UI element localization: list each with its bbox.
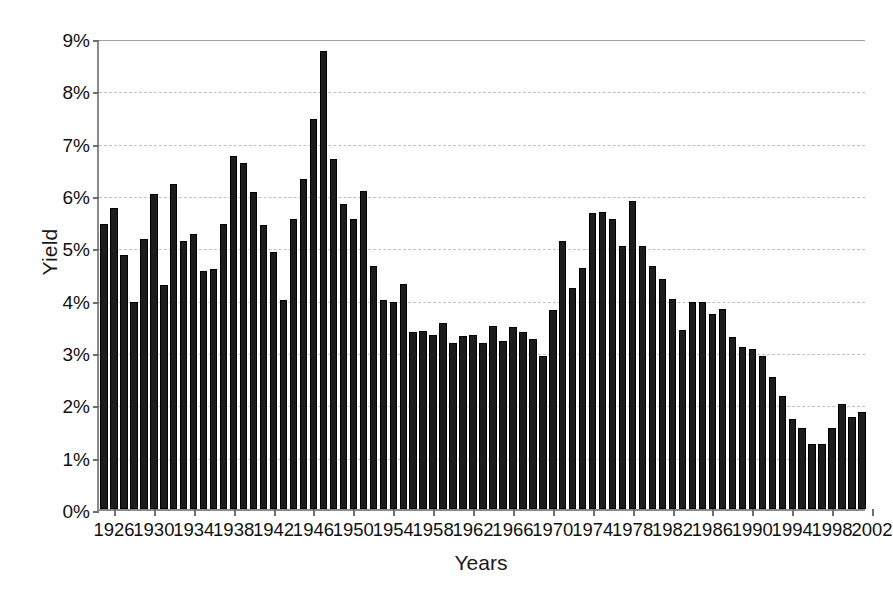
bar <box>589 213 596 509</box>
x-tick-label: 1966 <box>492 521 533 540</box>
y-tick-label: 9% <box>38 31 90 50</box>
bar <box>798 428 805 509</box>
y-tick-label: 2% <box>38 397 90 416</box>
bar <box>779 396 786 509</box>
bar <box>240 163 247 509</box>
bar <box>719 309 726 509</box>
bar <box>409 332 416 509</box>
bar <box>360 191 367 509</box>
bar <box>789 419 796 509</box>
bar <box>549 310 556 509</box>
bar <box>749 349 756 509</box>
x-tick-mark <box>673 509 675 516</box>
x-tick-label: 1958 <box>413 521 454 540</box>
bar <box>848 417 855 509</box>
x-tick-mark <box>433 509 435 516</box>
bar <box>808 444 815 509</box>
x-axis-title: Years <box>97 551 865 575</box>
bar <box>599 212 606 509</box>
x-tick-mark <box>513 509 515 516</box>
bar <box>489 326 496 509</box>
bar <box>729 337 736 509</box>
bar <box>400 284 407 509</box>
bar <box>529 339 536 509</box>
x-tick-mark <box>792 509 794 516</box>
bar <box>629 201 636 509</box>
bar <box>110 208 117 509</box>
x-tick-label: 1990 <box>732 521 773 540</box>
bar <box>649 266 656 509</box>
bar <box>769 377 776 509</box>
x-tick-label: 1934 <box>173 521 214 540</box>
x-tick-mark <box>872 509 874 516</box>
x-tick-label: 1982 <box>652 521 693 540</box>
x-tick-label: 1946 <box>293 521 334 540</box>
y-tick-label: 3% <box>38 345 90 364</box>
x-tick-label: 1926 <box>93 521 134 540</box>
x-tick-mark <box>593 509 595 516</box>
y-tick-label: 8% <box>38 83 90 102</box>
bar <box>180 241 187 509</box>
bar <box>469 335 476 509</box>
y-tick-mark <box>93 511 99 513</box>
x-tick-mark <box>313 509 315 516</box>
bar <box>479 343 486 509</box>
bar <box>270 252 277 509</box>
bar <box>669 299 676 509</box>
bar <box>330 159 337 509</box>
bar <box>739 347 746 509</box>
bar <box>699 302 706 509</box>
x-tick-label: 1942 <box>253 521 294 540</box>
bar <box>609 219 616 509</box>
x-tick-label: 1974 <box>572 521 613 540</box>
bar <box>130 302 137 509</box>
x-tick-label: 1930 <box>133 521 174 540</box>
bar <box>350 219 357 509</box>
bar <box>100 224 107 509</box>
plot-area: 0%1%2%3%4%5%6%7%8%9% 1926193019341938194… <box>97 40 865 511</box>
bar <box>858 412 865 509</box>
bar <box>818 444 825 509</box>
bar <box>499 341 506 510</box>
bar <box>260 225 267 509</box>
bar <box>300 179 307 509</box>
x-tick-label: 1994 <box>772 521 813 540</box>
bar <box>120 255 127 509</box>
bar <box>370 266 377 509</box>
y-tick-label: 4% <box>38 292 90 311</box>
x-tick-mark <box>712 509 714 516</box>
x-tick-mark <box>553 509 555 516</box>
bar <box>619 246 626 509</box>
x-tick-label: 1962 <box>452 521 493 540</box>
bar <box>390 302 397 509</box>
bar <box>579 268 586 509</box>
bar <box>190 234 197 509</box>
x-tick-mark <box>633 509 635 516</box>
bar <box>759 356 766 509</box>
bar <box>200 271 207 509</box>
x-tick-label: 1986 <box>692 521 733 540</box>
bar <box>419 331 426 509</box>
x-tick-label: 1978 <box>612 521 653 540</box>
bar <box>429 335 436 509</box>
x-tick-label: 2002 <box>851 521 892 540</box>
y-tick-label: 5% <box>38 240 90 259</box>
bar <box>689 302 696 509</box>
bar <box>230 156 237 509</box>
x-tick-mark <box>114 509 116 516</box>
bar <box>449 343 456 509</box>
x-tick-mark <box>234 509 236 516</box>
y-tick-label: 7% <box>38 135 90 154</box>
bar <box>380 300 387 509</box>
bar <box>828 428 835 509</box>
bar <box>170 184 177 510</box>
y-tick-label: 6% <box>38 188 90 207</box>
bar <box>459 336 466 509</box>
x-tick-mark <box>194 509 196 516</box>
x-tick-label: 1938 <box>213 521 254 540</box>
x-tick-label: 1998 <box>812 521 853 540</box>
bar <box>250 192 257 509</box>
y-tick-label: 1% <box>38 449 90 468</box>
bar-series <box>99 40 865 509</box>
bar <box>559 241 566 509</box>
